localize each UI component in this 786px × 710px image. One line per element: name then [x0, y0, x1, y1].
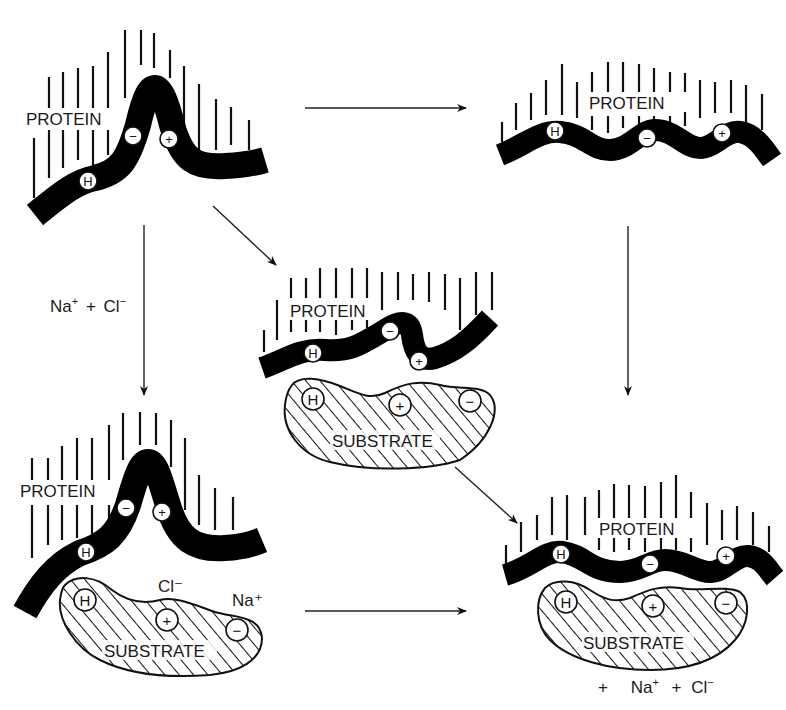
- protein-label: PROTEIN: [26, 110, 102, 129]
- panel-bottom-right: PROTEIN H − + SUBSTRATE H + − + Na+ + Cl…: [505, 475, 775, 697]
- charge-negative: −: [117, 499, 135, 517]
- panel-bottom-left: PROTEIN − + H SUBSTRATE H + − Cl⁻ Na⁺: [20, 412, 263, 676]
- charge-positive: +: [160, 130, 178, 148]
- charge-negative: −: [459, 390, 481, 412]
- hydrophobic-site: H: [552, 545, 570, 563]
- substrate-label: SUBSTRATE: [583, 634, 684, 653]
- chloride-ion-label: Cl⁻: [158, 577, 183, 596]
- svg-text:+: +: [722, 549, 730, 564]
- svg-text:H: H: [81, 545, 90, 560]
- svg-text:−: −: [722, 595, 731, 612]
- svg-text:−: −: [386, 324, 394, 339]
- protein-chain: [262, 318, 490, 368]
- charge-negative: −: [124, 127, 142, 145]
- charge-negative: −: [226, 619, 248, 641]
- substrate: SUBSTRATE H + −: [285, 379, 495, 469]
- panel-middle-binding: PROTEIN H − + SUBSTRATE H + −: [262, 268, 495, 469]
- charge-positive: +: [153, 503, 171, 521]
- charge-positive: +: [389, 394, 411, 416]
- released-ions-label: + Na+ + Cl−: [598, 671, 714, 697]
- protein-label: PROTEIN: [20, 482, 96, 501]
- protein-label: PROTEIN: [589, 94, 665, 113]
- hydrophobic-site: H: [79, 172, 97, 190]
- hydrophobic-site: H: [555, 591, 577, 613]
- charge-negative: −: [381, 322, 399, 340]
- svg-text:+: +: [163, 612, 172, 629]
- svg-text:H: H: [80, 592, 91, 609]
- substrate-label: SUBSTRATE: [104, 642, 205, 661]
- svg-text:−: −: [233, 622, 242, 639]
- svg-text:+: +: [158, 505, 166, 520]
- charge-positive: +: [717, 547, 735, 565]
- svg-text:+: +: [415, 354, 423, 369]
- charge-negative: −: [638, 129, 656, 147]
- sodium-ion-label: Na⁺: [232, 591, 263, 610]
- protein-label: PROTEIN: [290, 302, 366, 321]
- svg-text:−: −: [129, 129, 137, 144]
- hydrophobic-site: H: [74, 589, 96, 611]
- panel-top-left-protein: PROTEIN − + H: [26, 30, 265, 215]
- charge-negative: −: [715, 592, 737, 614]
- charge-positive: +: [410, 352, 428, 370]
- svg-text:H: H: [308, 346, 317, 361]
- svg-text:+: +: [649, 598, 658, 615]
- svg-text:H: H: [83, 174, 92, 189]
- arrow-top-left-to-middle: [213, 206, 276, 265]
- protein-label: PROTEIN: [599, 520, 675, 539]
- substrate: SUBSTRATE H + −: [538, 581, 747, 670]
- svg-text:H: H: [550, 124, 559, 139]
- hydrophobic-site: H: [302, 388, 324, 410]
- svg-text:+: +: [396, 397, 405, 414]
- charge-negative: −: [641, 555, 659, 573]
- hydrophobic-site: H: [77, 543, 95, 561]
- salt-added-label: Na+ + Cl−: [50, 290, 126, 316]
- svg-text:H: H: [308, 391, 319, 408]
- charge-positive: +: [713, 124, 731, 142]
- svg-text:−: −: [646, 557, 654, 572]
- diagram-canvas: PROTEIN − + H PROTEIN H −: [0, 0, 786, 710]
- svg-text:H: H: [556, 547, 565, 562]
- svg-text:−: −: [122, 501, 130, 516]
- svg-text:−: −: [466, 393, 475, 410]
- svg-text:+: +: [165, 132, 173, 147]
- hydrophobic-site: H: [304, 344, 322, 362]
- charge-positive: +: [156, 609, 178, 631]
- substrate-label: SUBSTRATE: [332, 432, 433, 451]
- svg-text:−: −: [643, 131, 651, 146]
- charge-positive: +: [642, 595, 664, 617]
- hydrophobic-site: H: [546, 122, 564, 140]
- svg-text:+: +: [718, 126, 726, 141]
- arrow-middle-to-bottom-right: [455, 467, 517, 523]
- svg-text:H: H: [561, 594, 572, 611]
- panel-top-right-protein: PROTEIN H − +: [500, 62, 772, 160]
